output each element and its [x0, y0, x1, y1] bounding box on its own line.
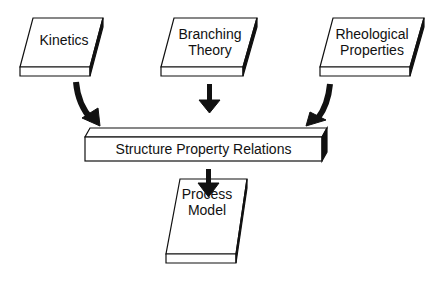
kinetics-label: Kinetics	[28, 32, 100, 48]
structure-property-relations-label: Structure Property Relations	[85, 141, 322, 157]
process-label-line1: Process	[172, 186, 242, 202]
rheological-label-line1: Rheological	[326, 26, 418, 42]
kinetics-label-line1: Kinetics	[28, 32, 100, 48]
rheological-arrow-icon	[306, 84, 330, 126]
process-label-line2: Model	[172, 202, 242, 218]
branching-label-line1: Branching	[170, 26, 250, 42]
branching-theory-label: Branching Theory	[170, 26, 250, 58]
rheological-properties-label: Rheological Properties	[326, 26, 418, 58]
diagram-canvas: Kinetics Branching Theory Rheological Pr…	[0, 0, 445, 285]
rheological-label-line2: Properties	[326, 42, 418, 58]
branching-label-line2: Theory	[170, 42, 250, 58]
process-model-label: Process Model	[172, 186, 242, 218]
kinetics-arrow-icon	[76, 82, 100, 126]
branching-arrow-icon	[199, 84, 220, 113]
